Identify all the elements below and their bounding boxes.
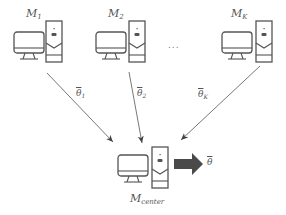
arrow-client-2-to-center bbox=[129, 72, 142, 143]
monitor-icon bbox=[14, 32, 44, 59]
center-label: Mcenter bbox=[130, 193, 164, 206]
param-label-k: θK bbox=[198, 90, 208, 100]
client-1-computer-icon bbox=[14, 21, 62, 62]
aggregated-param-label: θ bbox=[207, 158, 212, 167]
output-arrow-icon bbox=[174, 153, 203, 175]
monitor-icon bbox=[222, 32, 252, 59]
monitor-icon bbox=[118, 155, 148, 182]
tower-icon bbox=[152, 147, 168, 188]
tower-icon bbox=[129, 21, 145, 62]
param-label-2: θ2 bbox=[137, 89, 146, 99]
tower-icon bbox=[256, 21, 272, 62]
center-computer-icon bbox=[118, 147, 168, 188]
tower-icon bbox=[46, 21, 62, 62]
diagram-canvas bbox=[0, 0, 286, 215]
client-k-label: MK bbox=[231, 8, 248, 21]
arrow-client-1-to-center bbox=[47, 73, 113, 142]
arrow-client-k-to-center bbox=[181, 66, 260, 140]
ellipsis: ... bbox=[168, 40, 180, 50]
client-2-computer-icon bbox=[96, 21, 145, 62]
param-label-1: θ1 bbox=[76, 89, 85, 99]
monitor-icon bbox=[96, 32, 126, 59]
client-2-label: M2 bbox=[108, 8, 124, 21]
client-1-label: M1 bbox=[26, 8, 42, 21]
client-k-computer-icon bbox=[222, 21, 272, 62]
